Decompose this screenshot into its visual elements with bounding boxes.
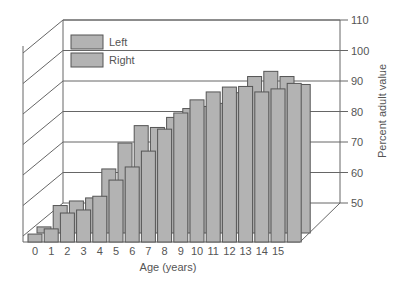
x-tick-label: 4 [97,245,103,257]
y-tick-label: 60 [351,167,363,179]
y-axis: 5060708090100110 [340,14,369,209]
y-tick-label: 70 [351,136,363,148]
bar-left-15 [271,89,285,242]
bar-left-7 [141,151,155,242]
bar-left-0 [28,234,42,242]
legend-swatch-left [71,35,103,49]
y-tick-label: 80 [351,106,363,118]
legend-swatch-right [71,53,103,67]
x-tick-label: 5 [113,245,119,257]
bar-left-16 [287,83,301,242]
bar-left-6 [125,167,139,242]
bar-left-12 [222,87,236,242]
x-tick-label: 2 [64,245,70,257]
x-tick-label: 13 [239,245,251,257]
x-tick-label: 15 [272,245,284,257]
y-axis-title: Percent adult value [376,64,388,158]
y-tick-label: 110 [351,14,369,26]
bar-left-5 [109,180,123,242]
bar-left-3 [77,210,91,242]
y-tick-label: 50 [351,197,363,209]
bar-left-13 [239,86,253,242]
legend-label-left: Left [109,36,127,48]
y-tick-label: 90 [351,75,363,87]
x-tick-label: 6 [129,245,135,257]
3d-bar-chart: 5060708090100110 0123456789101112131415 … [0,0,397,284]
bar-left-10 [190,100,204,242]
x-axis: 0123456789101112131415 [32,245,284,257]
y-tick-label: 100 [351,45,369,57]
x-tick-label: 1 [48,245,54,257]
bar-left-14 [255,92,269,242]
x-tick-label: 14 [256,245,268,257]
x-tick-label: 0 [32,245,38,257]
bar-left-11 [206,92,220,242]
legend-label-right: Right [109,54,135,66]
bar-left-1 [44,229,58,242]
x-axis-title: Age (years) [140,261,197,273]
x-tick-label: 9 [178,245,184,257]
bar-series [28,71,310,242]
x-tick-label: 10 [191,245,203,257]
x-tick-label: 12 [223,245,235,257]
x-tick-label: 8 [162,245,168,257]
bar-left-4 [93,196,107,242]
x-tick-label: 7 [145,245,151,257]
bar-left-8 [158,129,172,242]
x-tick-label: 3 [81,245,87,257]
bar-left-9 [174,113,188,242]
x-tick-label: 11 [207,245,218,257]
bar-left-2 [60,213,74,242]
